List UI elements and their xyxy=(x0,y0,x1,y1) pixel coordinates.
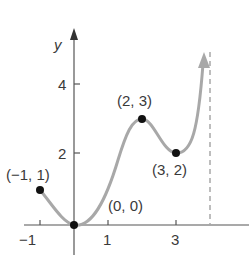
point-0-0 xyxy=(70,221,78,229)
point-2-3 xyxy=(138,115,146,123)
y-tick-label-2: 2 xyxy=(58,145,66,162)
y-axis-arrow-icon xyxy=(70,28,78,40)
point-label-0-0: (0, 0) xyxy=(108,197,143,214)
x-tick-label-1: 1 xyxy=(103,231,111,248)
function-graph: y −1 1 3 2 4 (−1, 1) (0, 0) (2, 3) (3, 2… xyxy=(0,0,249,255)
x-tick-label-neg1: −1 xyxy=(19,231,36,248)
y-tick-label-4: 4 xyxy=(58,76,66,93)
point-neg1-1 xyxy=(36,186,44,194)
x-tick-label-3: 3 xyxy=(171,231,179,248)
point-label-neg1-1: (−1, 1) xyxy=(6,166,50,183)
y-axis-label: y xyxy=(53,36,63,53)
point-3-2 xyxy=(172,149,180,157)
point-label-3-2: (3, 2) xyxy=(152,161,187,178)
point-label-2-3: (2, 3) xyxy=(117,92,152,109)
curve-arrow-icon xyxy=(198,52,210,68)
